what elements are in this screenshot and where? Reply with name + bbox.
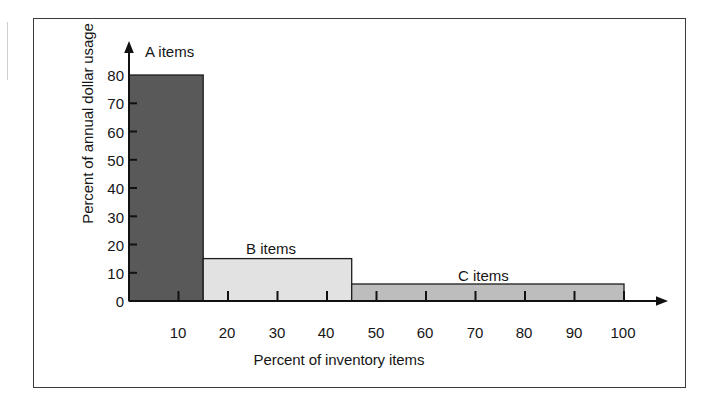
chart-page: Percent of annual dollar usage Percent o… [0, 0, 717, 410]
figure-frame: Percent of annual dollar usage Percent o… [33, 18, 686, 388]
bar-c-items [352, 284, 624, 301]
chart-canvas [34, 19, 687, 389]
bar-group [129, 75, 624, 301]
bar-a-items [129, 75, 203, 301]
scan-edge-artifact [7, 22, 8, 80]
